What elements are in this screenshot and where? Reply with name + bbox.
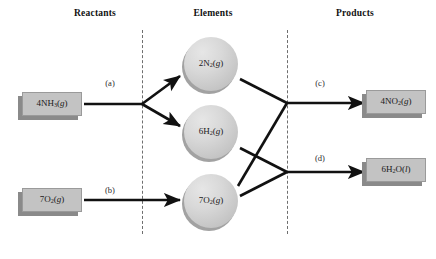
box-face: 7O2(g): [22, 188, 82, 212]
sphere-face: 6H2(g): [184, 105, 238, 159]
box-face: 4NO2(g): [366, 90, 426, 114]
reactant-label-o2: 7O2(g): [40, 195, 65, 204]
sphere-face: 2N2(g): [184, 37, 238, 91]
sphere-face: 7O2(g): [184, 174, 238, 228]
product-label-no2: 4NO2(g): [380, 97, 411, 106]
edge-o2-to-junction-d: [240, 172, 287, 196]
edge-label-a: (a): [105, 78, 114, 88]
product-box-no2: 4NO2(g): [366, 90, 426, 114]
element-circle-n2: 2N2(g): [184, 37, 238, 91]
reactant-box-nh3: 4NH3(g): [22, 92, 82, 116]
box-face: 4NH3(g): [22, 92, 82, 116]
product-box-h2o: 6H2O(l): [366, 158, 426, 182]
reaction-diagram: Reactants Elements Products: [0, 0, 436, 259]
element-circle-o2: 7O2(g): [184, 174, 238, 228]
edge-o2-to-junction-c: [238, 103, 287, 186]
edge-label-c: (c): [315, 78, 324, 88]
reactant-label-nh3: 4NH3(g): [36, 99, 67, 108]
box-face: 6H2O(l): [366, 158, 426, 182]
edge-n2-to-junction-c: [240, 79, 287, 103]
element-label-h2: 6H2(g): [199, 127, 224, 136]
edge-label-b: (b): [105, 185, 115, 195]
product-label-h2o: 6H2O(l): [381, 165, 410, 174]
edge-split-to-n2: [142, 76, 180, 104]
edge-split-to-h2: [142, 104, 180, 126]
element-circle-h2: 6H2(g): [184, 105, 238, 159]
edge-label-d: (d): [315, 153, 325, 163]
element-label-o2: 7O2(g): [199, 196, 224, 205]
reactant-box-o2: 7O2(g): [22, 188, 82, 212]
element-label-n2: 2N2(g): [199, 59, 224, 68]
